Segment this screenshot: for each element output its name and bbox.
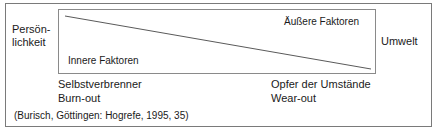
inner-factors-label: Innere Faktoren [68,54,139,67]
right-pole-label: Opfer der Umstände Wear-out [271,77,371,105]
figure-container: Persön- lichkeit Umwelt Äußere Faktoren … [5,3,432,127]
source-citation: (Burisch, Göttingen: Hogrefe, 1995, 35) [14,109,189,122]
right-axis-label: Umwelt [381,35,433,48]
outer-factors-label: Äußere Faktoren [284,15,359,28]
left-pole-label: Selbstverbrenner Burn-out [58,77,142,105]
left-axis-label: Persön- lichkeit [12,23,58,49]
